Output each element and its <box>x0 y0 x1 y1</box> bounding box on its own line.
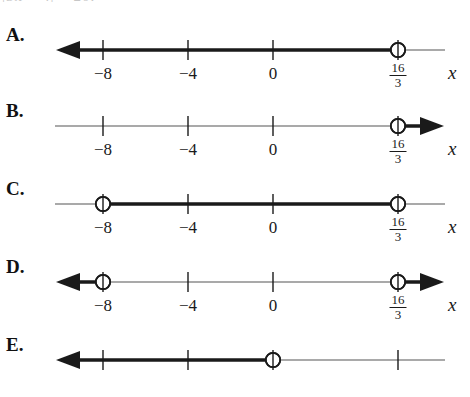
choice-a-tick-label-fraction: 163 <box>390 63 407 91</box>
choice-d-arrowhead-left <box>56 273 80 291</box>
choice-d-arrowhead-right <box>420 273 444 291</box>
choice-d-tick-label-0: −8 <box>94 296 112 316</box>
clipped-problem-statement: |3x + 4| > 20. <box>0 0 470 2</box>
choice-a-fraction-numerator: 16 <box>390 61 407 76</box>
choice-d[interactable]: D.−8−40163x <box>0 256 470 336</box>
choice-c-fraction-denominator: 3 <box>390 230 407 244</box>
choice-b[interactable]: B.−8−40163x <box>0 100 470 180</box>
choice-b-tick-label-1: −4 <box>179 140 197 160</box>
choice-e[interactable]: E. <box>0 334 470 397</box>
choice-a-fraction-denominator: 3 <box>390 76 407 90</box>
choice-a-arrowhead-left <box>56 41 80 59</box>
choice-a-tick-label-1: −4 <box>179 64 197 84</box>
choice-a-tick-label-2: 0 <box>269 64 278 84</box>
choice-d-axis-variable: x <box>448 294 456 316</box>
choice-b-tick-label-0: −8 <box>94 140 112 160</box>
choice-b-fraction-denominator: 3 <box>390 152 407 166</box>
choice-d-tick-label-2: 0 <box>269 296 278 316</box>
choice-a[interactable]: A.−8−40163x <box>0 24 470 104</box>
choice-b-axis-variable: x <box>448 138 456 160</box>
choice-e-number-line <box>0 334 470 394</box>
choice-c-tick-label-fraction: 163 <box>390 217 407 245</box>
choice-b-tick-label-fraction: 163 <box>390 139 407 167</box>
choice-d-fraction-denominator: 3 <box>390 308 407 322</box>
choice-a-axis-variable: x <box>448 62 456 84</box>
choice-b-arrowhead-right <box>420 117 444 135</box>
choice-c-tick-label-1: −4 <box>179 218 197 238</box>
choice-b-tick-label-2: 0 <box>269 140 278 160</box>
choice-e-arrowhead-left <box>56 351 80 369</box>
choice-c-tick-label-2: 0 <box>269 218 278 238</box>
choice-c-tick-label-0: −8 <box>94 218 112 238</box>
choice-d-tick-label-fraction: 163 <box>390 295 407 323</box>
choice-b-fraction-numerator: 16 <box>390 137 407 152</box>
choice-c[interactable]: C.−8−40163x <box>0 178 470 258</box>
choice-d-fraction-numerator: 16 <box>390 293 407 308</box>
choice-c-fraction-numerator: 16 <box>390 215 407 230</box>
choice-c-axis-variable: x <box>448 216 456 238</box>
choice-a-tick-label-0: −8 <box>94 64 112 84</box>
choice-d-tick-label-1: −4 <box>179 296 197 316</box>
